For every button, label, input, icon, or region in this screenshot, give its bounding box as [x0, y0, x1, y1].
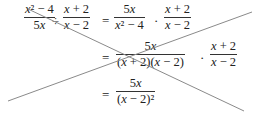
cross-out-overlay — [0, 0, 254, 117]
cross-out-line-ascending — [8, 12, 252, 101]
cross-out-line-descending — [28, 9, 244, 111]
